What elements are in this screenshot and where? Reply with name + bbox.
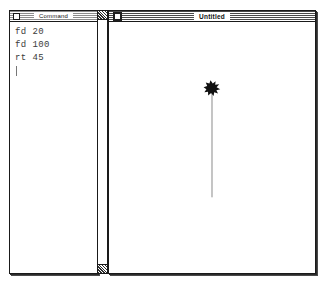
graphics-window[interactable]: Untitled <box>108 10 316 274</box>
scroll-up-arrow-icon[interactable] <box>98 11 107 20</box>
turtle-cursor-icon <box>204 80 221 96</box>
command-line-2: fd 100 <box>15 39 97 52</box>
scroll-down-arrow-icon[interactable] <box>98 264 107 273</box>
command-window[interactable]: Command fd 20 fd 100 rt 45 <box>9 10 98 274</box>
command-window-titlebar[interactable]: Command <box>10 11 97 22</box>
turtle-graphics-svg <box>109 22 315 273</box>
graphics-window-title: Untitled <box>109 11 315 22</box>
command-line-3: rt 45 <box>15 52 97 65</box>
graphics-window-title-text: Untitled <box>194 13 230 20</box>
scrollbar-track[interactable] <box>98 20 107 264</box>
command-window-title: Command <box>10 11 97 22</box>
turtle-graphics-canvas[interactable] <box>109 22 315 273</box>
command-input-area[interactable]: fd 20 fd 100 rt 45 <box>10 22 97 273</box>
command-window-title-text: Command <box>34 13 73 19</box>
command-window-scrollbar[interactable] <box>97 10 108 274</box>
command-caret-line[interactable] <box>15 65 97 78</box>
command-line-1: fd 20 <box>15 26 97 39</box>
logo-application-screen: Command fd 20 fd 100 rt 45 Untitled <box>0 0 332 291</box>
text-caret <box>16 66 17 76</box>
graphics-window-titlebar[interactable]: Untitled <box>109 11 315 22</box>
